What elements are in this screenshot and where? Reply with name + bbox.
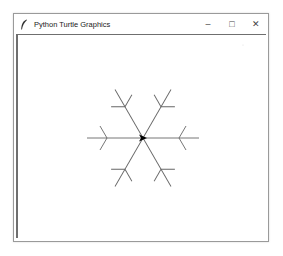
close-icon: ✕ [252, 19, 260, 29]
window-controls: – □ ✕ [196, 14, 268, 34]
window-title: Python Turtle Graphics [34, 20, 110, 29]
snowflake-drawing [18, 35, 268, 239]
turtle-canvas[interactable] [16, 34, 266, 238]
close-button[interactable]: ✕ [244, 14, 268, 34]
minimize-icon: – [205, 19, 210, 29]
maximize-icon: □ [229, 19, 234, 29]
turtle-window: Python Turtle Graphics – □ ✕ [13, 13, 269, 242]
feather-icon [20, 18, 30, 30]
title-bar[interactable]: Python Turtle Graphics – □ ✕ [14, 14, 268, 34]
maximize-button[interactable]: □ [220, 14, 244, 34]
minimize-button[interactable]: – [196, 14, 220, 34]
